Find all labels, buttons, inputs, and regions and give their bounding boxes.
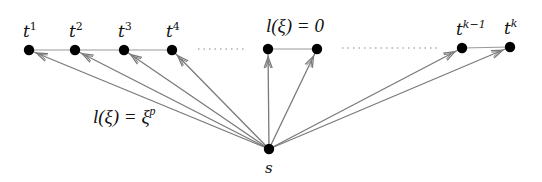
annotation-zero-length: l(ξ) = 0	[266, 15, 324, 37]
node-m1	[263, 44, 273, 54]
label-t2: t2	[69, 20, 83, 41]
arrow-edge-s-t1	[29, 50, 269, 149]
arrow-edge-s-m2	[269, 49, 317, 149]
node-t2	[70, 45, 80, 55]
label-tk-1: tk−1	[456, 18, 486, 39]
node-t1	[24, 45, 34, 55]
arrowhead-icon	[443, 52, 455, 61]
label-t3: t3	[118, 20, 132, 41]
arrowhead-icon	[131, 55, 142, 65]
annotation-power-length: l(ξ) = ξp	[93, 104, 156, 128]
arrowhead-icon	[82, 54, 94, 63]
node-t4	[167, 45, 177, 55]
arrow-edge-s-t3	[124, 50, 269, 149]
arrow-edge-s-m1	[264, 49, 272, 149]
label-tk: tk	[504, 17, 518, 38]
arrow-edges	[29, 47, 510, 149]
arrow-edge-s-t4	[172, 50, 269, 149]
arrow-edge-s-tk	[269, 47, 510, 149]
label-t4: t4	[166, 20, 180, 41]
graph-diagram: t1t2t3t4tk−1tks l(ξ) = 0l(ξ) = ξp	[0, 0, 542, 182]
arrow-edge-s-t2	[75, 50, 269, 149]
label-source: s	[265, 159, 273, 177]
node-m2	[312, 44, 322, 54]
node-tk	[505, 42, 515, 52]
arrow-edge-s-tk-1	[269, 48, 462, 149]
path-edge-tk-1-tk	[462, 47, 510, 48]
node-t3	[119, 45, 129, 55]
node-source	[264, 144, 274, 154]
label-t1: t1	[23, 20, 37, 41]
node-tk-1	[457, 43, 467, 53]
